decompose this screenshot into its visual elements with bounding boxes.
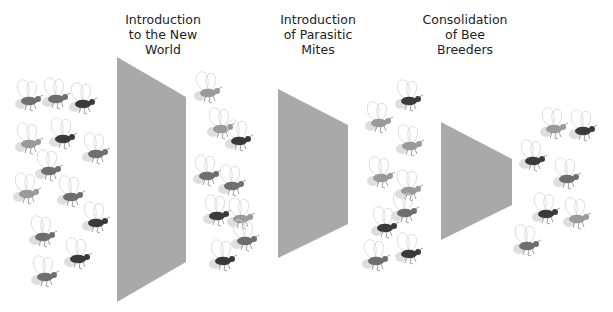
bee-icon bbox=[82, 202, 110, 233]
bee-icon bbox=[563, 198, 591, 229]
bee-icon bbox=[35, 150, 63, 181]
bee-icon bbox=[31, 256, 59, 287]
bee-icon bbox=[540, 108, 568, 139]
bee-icon bbox=[362, 240, 390, 271]
bee-icon bbox=[227, 198, 255, 229]
bee-icon bbox=[395, 233, 423, 264]
bee-icon bbox=[365, 102, 393, 133]
bee-icon bbox=[64, 238, 92, 269]
bee-icon bbox=[203, 195, 231, 226]
bee-icon bbox=[82, 133, 110, 164]
group-initial bbox=[13, 78, 110, 287]
bee-icon bbox=[395, 170, 423, 201]
bee-icon bbox=[395, 80, 423, 111]
bee-icon bbox=[513, 225, 541, 256]
bee-icon bbox=[218, 165, 246, 196]
bee-icon bbox=[193, 155, 221, 186]
group-after-consolidation bbox=[513, 108, 597, 256]
funnel-bee-breeders bbox=[441, 122, 512, 240]
diagram-canvas: Introduction to the New World Introducti… bbox=[0, 0, 613, 312]
bee-icon bbox=[532, 193, 560, 224]
funnel-parasitic-mites bbox=[278, 89, 348, 258]
group-after-mites bbox=[362, 80, 424, 271]
bee-icon bbox=[29, 216, 57, 247]
bee-icon bbox=[57, 176, 85, 207]
funnel-new-world bbox=[117, 57, 186, 302]
bee-icon bbox=[15, 80, 43, 111]
bee-icon bbox=[396, 125, 424, 156]
bee-icon bbox=[207, 108, 235, 139]
bee-icon bbox=[15, 123, 43, 154]
bee-icon bbox=[194, 72, 222, 103]
bee-icon bbox=[42, 78, 70, 109]
bee-icon bbox=[49, 118, 77, 149]
bee-icon bbox=[367, 157, 395, 188]
bee-icon bbox=[519, 140, 547, 171]
bee-icon bbox=[569, 110, 597, 141]
bee-icon bbox=[553, 158, 581, 189]
group-after-new-world bbox=[193, 72, 259, 271]
bee-icon bbox=[69, 83, 97, 114]
diagram-svg bbox=[0, 0, 613, 312]
